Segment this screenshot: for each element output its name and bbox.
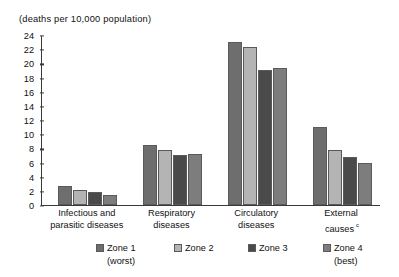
bar-group [313,36,372,205]
bar [228,42,242,205]
bar [258,70,272,205]
x-axis: Infectious andparasitic diseasesRespirat… [41,208,380,242]
bar [73,190,87,205]
legend-item-label: Zone 3 [259,243,288,253]
bar [243,47,257,205]
bar [343,157,357,205]
y-axis-tick-label: 8 [29,144,34,154]
legend-swatch-icon [323,244,331,252]
legend-swatch-icon [248,244,256,252]
bar [158,150,172,205]
y-axis-tick-label: 22 [24,45,34,55]
x-axis-category-label: Externalcausesc [271,208,399,235]
y-axis-tick-label: 12 [24,116,34,126]
bars-layer [42,36,380,205]
legend-item-zone-1[interactable]: Zone 1 [96,243,136,253]
bar [188,154,202,205]
legend-item-zone-3[interactable]: Zone 3 [248,243,288,253]
y-axis-tick-label: 20 [24,59,34,69]
bar [58,186,72,205]
legend-row: Zone 1Zone 2Zone 3Zone 4 [41,243,380,255]
bar-group [58,36,117,205]
legend-swatch-icon [174,244,182,252]
legend-item-label: Zone 4 [334,243,363,253]
x-axis-label-footnote-marker: c [356,221,359,228]
bar [143,145,157,205]
bar [313,127,327,205]
x-axis-label-line: causesc [271,220,399,236]
bar-chart: (deaths per 10,000 population) 024681012… [0,0,399,277]
y-axis-tick-label: 2 [29,187,34,197]
legend-item-zone-4[interactable]: Zone 4 [323,243,363,253]
y-axis-tick-label: 4 [29,173,34,183]
bar [273,68,287,205]
legend-item-sublabel: (worst) [107,256,135,266]
x-axis-label-line: External [271,208,399,220]
y-axis-tick-label: 16 [24,88,34,98]
bar-group [143,36,202,205]
bar [103,195,117,205]
chart-legend: Zone 1Zone 2Zone 3Zone 4 (worst)(best) [41,243,380,271]
legend-item-sublabel: (best) [334,256,358,266]
bar [328,150,342,205]
legend-item-zone-2[interactable]: Zone 2 [174,243,214,253]
chart-title: (deaths per 10,000 population) [19,14,151,24]
bar [88,192,102,205]
y-axis-tick-label: 18 [24,74,34,84]
legend-item-label: Zone 1 [107,243,136,253]
y-axis-tick-label: 24 [24,31,34,41]
bar [358,163,372,206]
y-axis-tick-label: 6 [29,159,34,169]
legend-swatch-icon [96,244,104,252]
y-axis: 024681012141618202224 [0,36,40,206]
bar [173,155,187,205]
y-axis-tick-label: 10 [24,130,34,140]
plot-area [41,36,380,206]
bar-group [228,36,287,205]
y-axis-tick-label: 14 [24,102,34,112]
legend-item-label: Zone 2 [185,243,214,253]
